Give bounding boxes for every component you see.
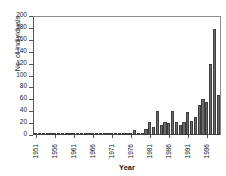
bar	[175, 122, 178, 135]
x-axis-tick-label-text: 1996	[203, 139, 210, 163]
x-axis-tick-label: 1971	[108, 140, 116, 164]
x-axis-tick	[74, 135, 75, 138]
y-axis-tick-label: 180	[0, 24, 27, 32]
x-axis-tick-label: 1996	[203, 140, 211, 164]
x-axis-tick-label-text: 1956	[52, 139, 59, 163]
y-axis-tick-label-text: 180	[0, 24, 27, 31]
x-axis-tick-label: 1976	[127, 140, 135, 164]
bar	[201, 99, 204, 135]
y-axis-tick-label: 100	[0, 72, 27, 80]
bar	[209, 64, 212, 135]
y-axis-tick	[29, 76, 33, 77]
y-axis-tick-label: 160	[0, 36, 27, 44]
y-axis-tick-label: 120	[0, 60, 27, 68]
y-axis-tick	[29, 52, 33, 53]
bar	[125, 133, 128, 135]
bar	[61, 133, 64, 135]
bar	[65, 133, 68, 135]
bar	[171, 111, 174, 135]
x-axis-tick	[207, 135, 208, 138]
y-axis-tick	[29, 64, 33, 65]
y-axis-tick-label: 140	[0, 48, 27, 56]
bar	[42, 133, 45, 135]
x-axis-tick	[188, 135, 189, 138]
y-axis-tick-label-text: 0	[0, 131, 27, 138]
bar	[133, 130, 136, 135]
bar	[160, 125, 163, 135]
bar	[57, 133, 60, 135]
bar	[182, 122, 185, 135]
y-axis-tick	[29, 87, 33, 88]
x-axis-tick-label-text: 1976	[128, 139, 135, 163]
y-axis-tick-label-text: 160	[0, 36, 27, 43]
bar	[87, 133, 90, 135]
y-axis-tick-label-text: 120	[0, 60, 27, 67]
bar	[84, 133, 87, 135]
bar	[46, 133, 49, 135]
y-axis-tick-label-text: 200	[0, 12, 27, 19]
x-axis-tick	[36, 135, 37, 138]
y-axis-tick-label: 200	[0, 12, 27, 20]
bar	[122, 133, 125, 135]
x-axis-tick-label: 1991	[184, 140, 192, 164]
x-axis-tick-label: 1966	[89, 140, 97, 164]
bar	[76, 133, 79, 135]
bar	[198, 105, 201, 135]
bar	[137, 133, 140, 135]
bar	[217, 95, 220, 135]
bar	[91, 133, 94, 135]
bar	[110, 133, 113, 135]
x-axis-tick	[112, 135, 113, 138]
bar	[34, 133, 37, 135]
x-axis-tick-label-text: 1966	[90, 139, 97, 163]
x-axis-tick	[93, 135, 94, 138]
x-axis-title: Year	[33, 163, 221, 172]
bar	[114, 133, 117, 135]
x-axis-tick-label: 1981	[146, 140, 154, 164]
y-axis-tick-label-text: 20	[0, 119, 27, 126]
bar	[156, 111, 159, 135]
y-axis-tick	[29, 16, 33, 17]
y-axis-tick	[29, 28, 33, 29]
bar	[152, 127, 155, 135]
y-axis-tick	[29, 40, 33, 41]
bar	[144, 129, 147, 135]
x-axis-tick-label-text: 1981	[147, 139, 154, 163]
bar	[148, 122, 151, 135]
x-axis-tick-label: 1986	[165, 140, 173, 164]
bar	[179, 125, 182, 135]
bar	[38, 133, 41, 135]
y-axis-tick	[29, 135, 33, 136]
x-axis-tick	[150, 135, 151, 138]
bar	[99, 133, 102, 135]
y-axis-tick-label: 0	[0, 131, 27, 139]
x-axis-tick	[169, 135, 170, 138]
x-axis-tick-label-text: 1986	[166, 139, 173, 163]
y-axis-tick-label-text: 40	[0, 107, 27, 114]
bar-chart: No. of Individuals 020406080100120140160…	[0, 0, 226, 176]
bar	[80, 133, 83, 135]
bar	[106, 133, 109, 135]
x-axis-tick-label: 1961	[70, 140, 78, 164]
y-axis-tick-label: 40	[0, 107, 27, 115]
bar	[95, 133, 98, 135]
bar-series	[34, 16, 220, 135]
bar	[205, 102, 208, 135]
bar	[163, 122, 166, 135]
bar	[129, 133, 132, 135]
bar	[68, 133, 71, 135]
y-axis-tick-label: 20	[0, 119, 27, 127]
y-axis-tick-label-text: 140	[0, 48, 27, 55]
bar	[141, 133, 144, 135]
bar	[72, 133, 75, 135]
bar	[49, 133, 52, 135]
x-axis-tick-label: 1956	[51, 140, 59, 164]
y-axis-tick-label: 80	[0, 83, 27, 91]
x-axis-tick-label-text: 1991	[184, 139, 191, 163]
y-axis-tick-label-text: 80	[0, 83, 27, 90]
x-axis-tick-label-text: 1951	[33, 139, 40, 163]
y-axis-tick	[29, 123, 33, 124]
bar	[213, 29, 216, 135]
x-axis-tick-label-text: 1961	[71, 139, 78, 163]
bar	[53, 133, 56, 135]
